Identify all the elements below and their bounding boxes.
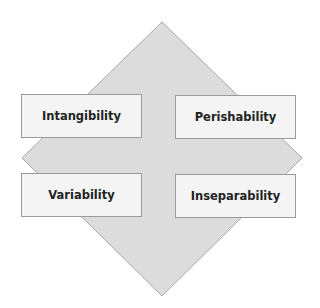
intangibility-label: Intangibility xyxy=(42,109,121,123)
intangibility-box: Intangibility xyxy=(21,94,142,138)
inseparability-box: Inseparability xyxy=(175,174,296,218)
variability-label: Variability xyxy=(48,188,114,202)
perishability-box: Perishability xyxy=(175,95,296,139)
diamond-shape xyxy=(0,0,320,308)
inseparability-label: Inseparability xyxy=(191,189,281,203)
variability-box: Variability xyxy=(21,173,142,217)
perishability-label: Perishability xyxy=(195,110,277,124)
